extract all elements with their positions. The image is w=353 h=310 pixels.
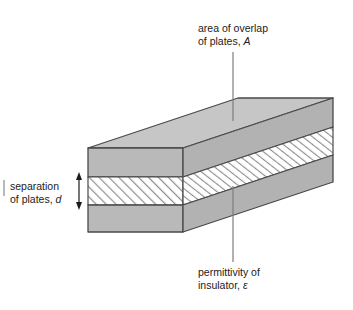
area-label-line2-prefix: of plates,: [198, 35, 244, 47]
permittivity-label-line2-prefix: insulator,: [198, 279, 243, 291]
capacitor-diagram: area of overlapof plates, A permittivity…: [0, 0, 353, 310]
permittivity-label: permittivity ofinsulator, ε: [198, 266, 260, 291]
permittivity-label-line1: permittivity of: [198, 266, 260, 278]
separation-label-symbol: d: [56, 193, 62, 205]
separation-label-line2-prefix: of plates,: [10, 193, 56, 205]
capacitor-illustration: [0, 0, 353, 310]
lower-plate-front-face: [88, 205, 183, 232]
separation-label-line1: separation: [10, 180, 59, 192]
upper-plate-front-face: [88, 148, 183, 177]
area-label-symbol: A: [244, 35, 251, 47]
area-label-line1: area of overlap: [198, 22, 268, 34]
insulator-front-face: [88, 177, 183, 205]
area-label: area of overlapof plates, A: [198, 22, 268, 47]
separation-arrow: [76, 172, 82, 210]
permittivity-label-symbol: ε: [243, 279, 248, 291]
separation-label: separationof plates, d: [10, 180, 61, 205]
